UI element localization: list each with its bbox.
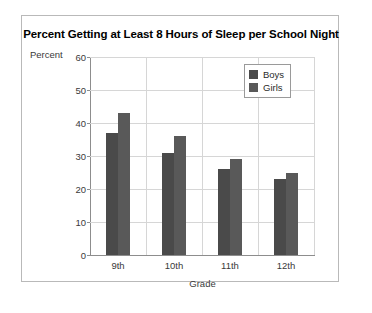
bar-boys-11th bbox=[218, 169, 230, 255]
bar-girls-10th bbox=[174, 136, 186, 255]
x-axis-line bbox=[90, 255, 315, 256]
y-axis-tick-label: 40 bbox=[56, 118, 86, 129]
x-axis-tick-label: 9th bbox=[90, 260, 146, 271]
legend-swatch-boys bbox=[249, 70, 258, 79]
chart-title: Percent Getting at Least 8 Hours of Slee… bbox=[22, 28, 340, 40]
y-axis-tick-label: 30 bbox=[56, 151, 86, 162]
y-axis-tick-labels: 0102030405060 bbox=[55, 57, 86, 255]
y-axis-tick-mark bbox=[87, 255, 90, 256]
bar-pair bbox=[146, 57, 202, 255]
bar-group bbox=[90, 57, 146, 255]
x-axis-tick-label: 10th bbox=[146, 260, 202, 271]
bar-pair bbox=[90, 57, 146, 255]
y-axis-tick-label: 10 bbox=[56, 217, 86, 228]
bar-boys-10th bbox=[162, 153, 174, 255]
x-axis-tick-label: 11th bbox=[202, 260, 258, 271]
bar-boys-12th bbox=[274, 179, 286, 255]
x-axis-tick-label: 12th bbox=[258, 260, 314, 271]
y-axis-tick-label: 50 bbox=[56, 85, 86, 96]
bar-group bbox=[146, 57, 202, 255]
bar-girls-12th bbox=[286, 173, 298, 256]
y-axis-tick-label: 20 bbox=[56, 184, 86, 195]
legend-swatch-girls bbox=[249, 83, 258, 92]
y-axis-tick-label: 0 bbox=[56, 250, 86, 261]
legend-item-boys: Boys bbox=[249, 68, 284, 81]
legend-label: Girls bbox=[263, 82, 283, 93]
gridline-vertical bbox=[314, 57, 315, 255]
chart-figure-frame: Percent Getting at Least 8 Hours of Slee… bbox=[21, 15, 339, 282]
bar-girls-9th bbox=[118, 113, 130, 255]
chart-legend: BoysGirls bbox=[244, 64, 291, 98]
legend-item-girls: Girls bbox=[249, 81, 284, 94]
y-axis-tick-label: 60 bbox=[56, 52, 86, 63]
x-axis-title: Grade bbox=[90, 278, 315, 289]
bar-girls-11th bbox=[230, 159, 242, 255]
legend-label: Boys bbox=[263, 69, 284, 80]
bar-boys-9th bbox=[106, 133, 118, 255]
